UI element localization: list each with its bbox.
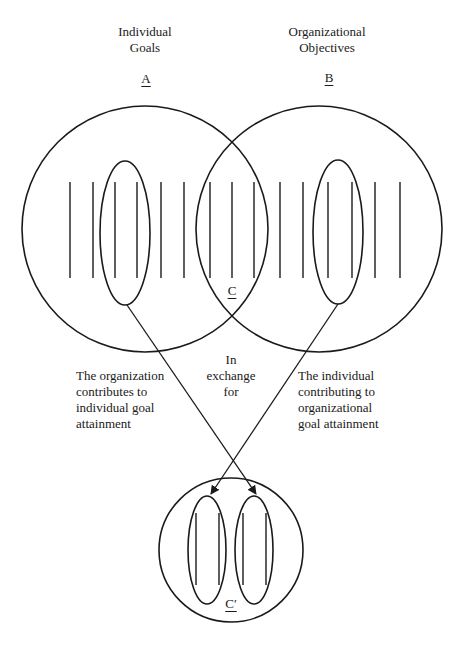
right-caption: The individual contributing to organizat… — [298, 368, 379, 432]
caption-line: individual goal — [76, 400, 164, 416]
label-c-prime: C′ — [225, 596, 237, 612]
title-line: Organizational — [288, 24, 365, 40]
left-caption: The organization contributes to individu… — [76, 368, 164, 432]
caption-line: In — [206, 352, 255, 368]
goal-bars — [70, 182, 400, 278]
goal-integration-diagram — [0, 0, 461, 648]
label-c: C — [228, 283, 237, 299]
integration-bars — [196, 513, 266, 585]
organizational-subset-ellipse — [313, 160, 363, 304]
caption-line: organizational — [298, 400, 379, 416]
label-a: A — [141, 71, 150, 87]
caption-line: The organization — [76, 368, 164, 384]
center-caption: In exchange for — [206, 352, 255, 400]
individual-goals-title: Individual Goals — [118, 24, 171, 56]
title-line: Individual — [118, 24, 171, 40]
caption-line: goal attainment — [298, 416, 379, 432]
integration-left-ellipse — [188, 496, 226, 604]
title-line: Objectives — [288, 40, 365, 56]
title-line: Goals — [118, 40, 171, 56]
caption-line: attainment — [76, 416, 164, 432]
caption-line: The individual — [298, 368, 379, 384]
caption-line: exchange — [206, 368, 255, 384]
organizational-objectives-title: Organizational Objectives — [288, 24, 365, 56]
integration-right-ellipse — [235, 496, 273, 604]
label-b: B — [325, 70, 334, 86]
individual-subset-ellipse — [100, 161, 150, 305]
caption-line: contributes to — [76, 384, 164, 400]
caption-line: contributing to — [298, 384, 379, 400]
caption-line: for — [206, 384, 255, 400]
